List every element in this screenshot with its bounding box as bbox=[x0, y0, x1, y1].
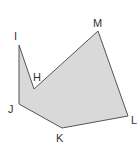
vertex-label-k: K bbox=[56, 132, 64, 144]
vertex-label-i: I bbox=[14, 30, 17, 42]
polygon-diagram: I H M L K J bbox=[0, 0, 139, 147]
vertex-label-h: H bbox=[33, 71, 41, 83]
vertex-label-j: J bbox=[8, 103, 14, 115]
vertex-label-m: M bbox=[93, 17, 102, 29]
vertex-label-l: L bbox=[131, 114, 137, 126]
